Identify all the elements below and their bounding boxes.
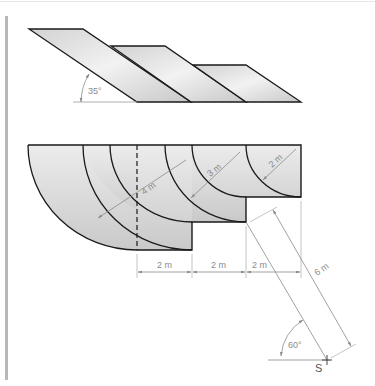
width-label-2: 2 m [211, 260, 226, 270]
top-view: 35° [29, 29, 301, 102]
angle-label-60: 60° [288, 340, 302, 350]
path-line-to-s [246, 222, 327, 360]
s-point-label: S [315, 362, 322, 374]
angle-label-35: 35° [88, 86, 102, 96]
width-label-3: 2 m [252, 260, 267, 270]
diagram-canvas: 35° 4 m 3 m 2 m 2 m 2 m [0, 0, 375, 386]
width-label-1: 2 m [157, 260, 172, 270]
bottom-view: 4 m 3 m 2 m 2 m 2 m 2 m 6 m 60° S [28, 145, 356, 374]
angle-arc-60 [281, 320, 303, 356]
length-label-6m: 6 m [312, 261, 330, 278]
length-dim-6m [273, 210, 351, 346]
